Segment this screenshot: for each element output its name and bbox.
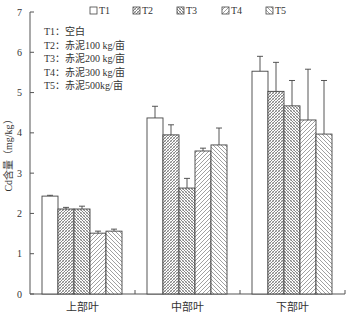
bar-t4 <box>90 233 106 294</box>
legend-swatch-t3 <box>177 7 184 14</box>
y-tick-label: 3 <box>17 168 22 179</box>
bar-t2 <box>163 135 179 294</box>
annotation-line: T2：赤泥100 kg/亩 <box>44 39 125 51</box>
y-tick-label: 1 <box>17 248 22 259</box>
bar-t3 <box>179 188 195 294</box>
legend: T1T2T3T4T5 <box>90 5 286 16</box>
annotation-line: T4：赤泥300 kg/亩 <box>44 66 125 78</box>
y-axis-title: Cd含量（mg/kg） <box>2 114 14 191</box>
bar-t4 <box>195 151 211 294</box>
x-category-label: 下部叶 <box>276 300 309 313</box>
annotation-line: T5：赤泥500kg/亩 <box>44 79 123 91</box>
bar-t3 <box>284 106 300 294</box>
legend-swatch-t5 <box>266 7 273 14</box>
y-ticks: 01234567 <box>17 7 34 300</box>
bar-t1 <box>147 118 163 294</box>
bar-t1 <box>252 71 268 294</box>
bar-t4 <box>300 120 316 294</box>
bar-t5 <box>211 145 227 294</box>
y-tick-label: 2 <box>17 208 22 219</box>
x-category-label: 上部叶 <box>66 300 99 313</box>
legend-swatch-t1 <box>90 7 97 14</box>
legend-label-t2: T2 <box>142 5 153 16</box>
bar-t5 <box>106 231 122 294</box>
annotation-line: T1：空白 <box>44 25 85 37</box>
legend-label-t5: T5 <box>275 5 286 16</box>
legend-swatch-t2 <box>133 7 140 14</box>
x-category-label: 中部叶 <box>171 300 204 313</box>
y-tick-label: 6 <box>17 47 22 58</box>
annotation-line: T3：赤泥200 kg/亩 <box>44 52 125 64</box>
x-categories: 上部叶中部叶下部叶 <box>66 300 309 313</box>
y-tick-label: 4 <box>17 127 22 138</box>
legend-label-t4: T4 <box>231 5 242 16</box>
y-tick-label: 7 <box>17 7 22 18</box>
legend-label-t1: T1 <box>99 5 110 16</box>
bar-t3 <box>74 209 90 294</box>
bar-chart: 01234567 上部叶中部叶下部叶 T1T2T3T4T5 T1：空白T2：赤泥… <box>0 0 350 319</box>
bar-t1 <box>42 196 58 294</box>
bar-t5 <box>316 134 332 294</box>
y-tick-label: 0 <box>17 289 22 300</box>
bar-t2 <box>58 209 74 294</box>
legend-label-t3: T3 <box>186 5 197 16</box>
legend-swatch-t4 <box>222 7 229 14</box>
bar-t2 <box>268 91 284 294</box>
y-tick-label: 5 <box>17 87 22 98</box>
annotation-block: T1：空白T2：赤泥100 kg/亩T3：赤泥200 kg/亩T4：赤泥300 … <box>44 25 125 91</box>
